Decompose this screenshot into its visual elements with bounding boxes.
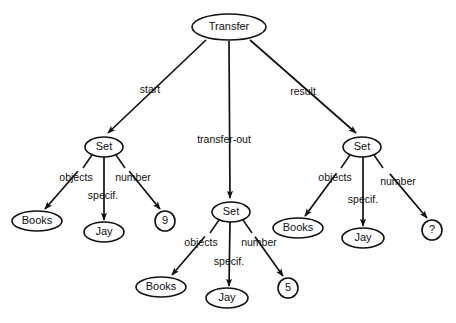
node-label-num-start: 9	[162, 214, 168, 226]
edge-label-e-out-objects: objects	[184, 236, 217, 248]
edge-label-e-transfer-out: transfer-out	[197, 133, 251, 145]
node-set-start[interactable]: Set	[85, 137, 123, 157]
edge-label-e-result: result	[290, 85, 316, 97]
edge-label-e-start: start	[140, 83, 161, 95]
edge-label-e-result-objects: objects	[318, 171, 351, 183]
edge-label-e-start-number: number	[115, 171, 151, 183]
node-transfer[interactable]: Transfer	[192, 14, 266, 40]
edge-stub	[374, 155, 383, 168]
edge-stub	[243, 220, 252, 233]
node-set-out[interactable]: Set	[212, 202, 250, 222]
node-label-num-result: ?	[429, 223, 435, 235]
edge-stub	[83, 155, 92, 168]
node-label-books-out: Books	[146, 280, 177, 292]
node-jay-out[interactable]: Jay	[206, 288, 248, 308]
node-num-start[interactable]: 9	[155, 211, 175, 231]
node-jay-result[interactable]: Jay	[342, 228, 384, 248]
edge-label-e-out-number: number	[241, 236, 277, 248]
edge-label-e-out-specif: specif.	[214, 255, 244, 267]
node-books-out[interactable]: Books	[136, 277, 186, 297]
edge-label-e-result-specif: specif.	[348, 193, 378, 205]
edge-label-e-start-specif: specif.	[88, 189, 118, 201]
node-jay-start[interactable]: Jay	[84, 222, 124, 242]
node-label-jay-result: Jay	[354, 231, 372, 243]
edge-stub	[116, 155, 125, 168]
node-label-set-start: Set	[96, 140, 113, 152]
node-label-transfer: Transfer	[209, 20, 250, 32]
edge-stub	[341, 155, 350, 168]
edge-label-e-result-number: number	[380, 175, 416, 187]
edges-layer	[45, 40, 427, 286]
node-label-set-result: Set	[354, 140, 371, 152]
node-books-start[interactable]: Books	[12, 211, 62, 231]
node-label-books-result: Books	[283, 221, 314, 233]
node-num-out[interactable]: 5	[278, 278, 298, 298]
edge-e-transfer-out	[229, 41, 230, 198]
node-label-jay-start: Jay	[95, 225, 113, 237]
edge-stub	[210, 220, 219, 233]
node-label-set-out: Set	[223, 205, 240, 217]
node-label-num-out: 5	[285, 281, 291, 293]
edge-label-e-start-objects: objects	[59, 171, 92, 183]
node-label-books-start: Books	[22, 214, 53, 226]
node-set-result[interactable]: Set	[343, 137, 381, 157]
semantic-network-diagram: TransferSetSetSetBooksJay9BooksJay5Books…	[0, 0, 456, 323]
node-label-jay-out: Jay	[218, 291, 236, 303]
node-books-result[interactable]: Books	[273, 218, 323, 238]
node-num-result[interactable]: ?	[422, 220, 442, 240]
